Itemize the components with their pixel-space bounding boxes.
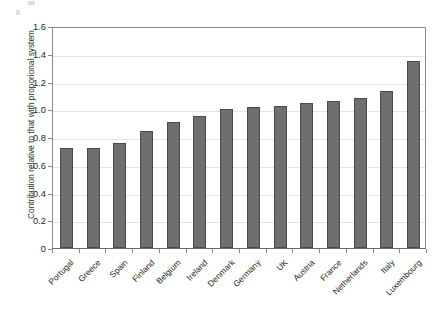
x-tick-mark — [373, 249, 374, 253]
x-tick-mark — [399, 249, 400, 253]
bar — [247, 107, 260, 248]
bar — [113, 143, 126, 248]
y-tick-label: 1.2 — [6, 78, 46, 88]
bar — [407, 61, 420, 248]
x-tick-mark — [346, 249, 347, 253]
scan-artifact — [16, 10, 20, 15]
bar — [220, 109, 233, 248]
y-tick-label: 0.4 — [6, 189, 46, 199]
y-tick-label: 0.6 — [6, 161, 46, 171]
bar — [274, 106, 287, 248]
x-tick-mark — [79, 249, 80, 253]
plot-area — [52, 27, 426, 249]
x-tick-mark — [292, 249, 293, 253]
bar — [327, 101, 340, 248]
bar — [300, 103, 313, 248]
y-tick-label: 1.6 — [6, 22, 46, 32]
y-tick-label: 1.0 — [6, 105, 46, 115]
bar — [140, 131, 153, 248]
bars-group — [53, 28, 425, 248]
x-tick-mark — [186, 249, 187, 253]
x-tick-mark — [239, 249, 240, 253]
y-tick-label: 0 — [6, 244, 46, 254]
y-tick-label: 0.8 — [6, 133, 46, 143]
bar — [87, 148, 100, 248]
bar — [60, 148, 73, 248]
bar — [380, 91, 393, 248]
x-tick-mark — [212, 249, 213, 253]
scan-artifact — [28, 1, 35, 5]
bar-chart: Contribution relative to that with propo… — [0, 0, 440, 309]
x-tick-mark — [132, 249, 133, 253]
bar — [193, 116, 206, 248]
x-tick-mark — [52, 249, 53, 253]
bar — [167, 122, 180, 248]
y-axis-title: Contribution relative to that with propo… — [27, 10, 36, 240]
y-tick-label: 1.4 — [6, 50, 46, 60]
y-tick-label: 0.2 — [6, 216, 46, 226]
x-tick-mark — [266, 249, 267, 253]
x-tick-mark — [105, 249, 106, 253]
x-tick-mark — [319, 249, 320, 253]
bar — [354, 98, 367, 248]
x-tick-mark — [159, 249, 160, 253]
x-tick-mark — [426, 249, 427, 253]
